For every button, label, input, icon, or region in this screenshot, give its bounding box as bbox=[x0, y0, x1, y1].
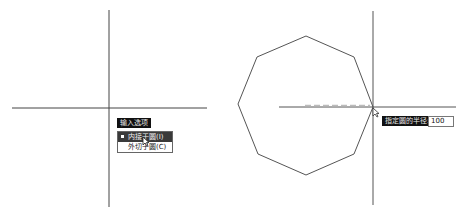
enter-option-tooltip: 输入选项 bbox=[117, 118, 151, 128]
mouse-pointer-icon bbox=[142, 136, 150, 147]
selected-bullet-icon bbox=[121, 135, 124, 138]
drawing-canvas[interactable] bbox=[0, 0, 468, 217]
radius-prompt-tooltip: 指定圆的半径: bbox=[382, 116, 428, 126]
crosshair-pointer-icon bbox=[372, 107, 380, 118]
radius-input[interactable] bbox=[428, 116, 454, 127]
